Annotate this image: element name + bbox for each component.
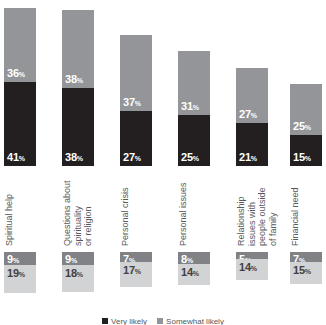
percent-sign: %	[135, 100, 141, 107]
legend-swatch	[102, 318, 108, 324]
bar-segment-somewhat-likely: 37%	[120, 35, 152, 111]
stacked-bar-upper: 31%25%	[178, 51, 210, 166]
bar-segment-very-likely: 25%	[178, 115, 210, 166]
percent-sign: %	[77, 155, 83, 162]
bar-value-label: 14%	[239, 262, 257, 273]
stacked-bar-lower: 7%15%	[290, 252, 322, 284]
bar-value-label: 9%	[65, 254, 77, 265]
bar-value-label: 15%	[293, 152, 311, 163]
bar-segment-not-very-likely: 7%	[290, 252, 322, 262]
bar-value-label: 17%	[123, 265, 141, 276]
bar-segment-not-at-all-likely: 17%	[120, 262, 152, 287]
percent-sign: %	[135, 155, 141, 162]
bar-value-label: 9%	[7, 254, 19, 265]
category-label: Relationship issues with people outside …	[236, 176, 278, 246]
bar-value-label: 38%	[65, 74, 83, 85]
chart-legend: Very likelySomewhat likely	[0, 317, 326, 325]
stacked-bar-upper: 25%15%	[290, 84, 322, 166]
bar-value-label: 18%	[65, 268, 83, 279]
category-label: Questions about spirituality or religion	[62, 176, 94, 246]
stacked-bar-upper: 36%41%	[4, 8, 36, 166]
percent-sign: %	[135, 268, 141, 275]
bar-segment-not-at-all-likely: 18%	[62, 265, 94, 292]
bar-value-label: 19%	[7, 268, 25, 279]
bar-segment-not-at-all-likely: 14%	[236, 259, 268, 280]
bar-segment-not-very-likely: 9%	[4, 252, 36, 265]
bar-segment-very-likely: 21%	[236, 123, 268, 166]
percent-sign: %	[13, 257, 19, 264]
percent-sign: %	[251, 265, 257, 272]
bar-segment-not-at-all-likely: 14%	[178, 264, 210, 285]
percent-sign: %	[193, 155, 199, 162]
category-label: Spiritual help	[4, 176, 15, 246]
bar-segment-not-at-all-likely: 15%	[290, 262, 322, 284]
percent-sign: %	[19, 155, 25, 162]
bar-segment-somewhat-likely: 31%	[178, 51, 210, 115]
percent-sign: %	[193, 270, 199, 277]
legend-item: Very likely	[102, 317, 147, 325]
percent-sign: %	[187, 257, 193, 264]
percent-sign: %	[251, 112, 257, 119]
bar-value-label: 31%	[181, 101, 199, 112]
bar-segment-somewhat-likely: 25%	[290, 84, 322, 135]
bar-value-label: 27%	[123, 152, 141, 163]
bar-segment-not-at-all-likely: 19%	[4, 265, 36, 293]
stacked-bar-lower: 8%14%	[178, 252, 210, 285]
bar-segment-very-likely: 27%	[120, 111, 152, 166]
bar-segment-somewhat-likely: 27%	[236, 68, 268, 123]
stacked-bar-upper: 27%21%	[236, 68, 268, 166]
bar-segment-somewhat-likely: 36%	[4, 8, 36, 82]
bar-value-label: 25%	[293, 121, 311, 132]
percent-sign: %	[305, 124, 311, 131]
category-label: Financial need	[290, 176, 301, 246]
bar-segment-not-very-likely: 7%	[120, 252, 152, 262]
percent-sign: %	[305, 155, 311, 162]
bar-value-label: 38%	[65, 152, 83, 163]
percent-sign: %	[305, 268, 311, 275]
percent-sign: %	[193, 104, 199, 111]
stacked-bar-lower: 5%14%	[236, 252, 268, 280]
legend-item: Somewhat likely	[157, 317, 224, 325]
bar-segment-somewhat-likely: 38%	[62, 10, 94, 88]
bar-value-label: 21%	[239, 152, 257, 163]
percent-sign: %	[77, 77, 83, 84]
legend-label: Very likely	[111, 317, 147, 325]
bar-value-label: 25%	[181, 152, 199, 163]
stacked-bar-upper: 37%27%	[120, 35, 152, 166]
bar-segment-very-likely: 15%	[290, 135, 322, 166]
bar-value-label: 36%	[7, 68, 25, 79]
percent-sign: %	[251, 155, 257, 162]
percent-sign: %	[19, 71, 25, 78]
stacked-bar-chart: 36%41%38%38%37%27%31%25%27%21%25%15% Spi…	[0, 0, 326, 325]
percent-sign: %	[71, 257, 77, 264]
category-label: Personal crisis	[120, 176, 131, 246]
bar-segment-very-likely: 41%	[4, 82, 36, 166]
bar-segment-not-very-likely: 8%	[178, 252, 210, 264]
bar-segment-not-very-likely: 9%	[62, 252, 94, 265]
stacked-bar-lower: 9%19%	[4, 252, 36, 293]
percent-sign: %	[77, 271, 83, 278]
category-label: Personal issues	[178, 176, 189, 246]
legend-swatch	[157, 318, 163, 324]
bar-value-label: 14%	[181, 267, 199, 278]
bar-value-label: 27%	[239, 109, 257, 120]
bar-value-label: 15%	[293, 265, 311, 276]
stacked-bar-lower: 9%18%	[62, 252, 94, 292]
stacked-bar-lower: 7%17%	[120, 252, 152, 287]
bar-value-label: 37%	[123, 97, 141, 108]
bar-segment-very-likely: 38%	[62, 88, 94, 166]
stacked-bar-upper: 38%38%	[62, 10, 94, 166]
bar-segment-not-very-likely: 5%	[236, 252, 268, 259]
percent-sign: %	[19, 271, 25, 278]
legend-label: Somewhat likely	[166, 317, 224, 325]
bar-value-label: 41%	[7, 152, 25, 163]
